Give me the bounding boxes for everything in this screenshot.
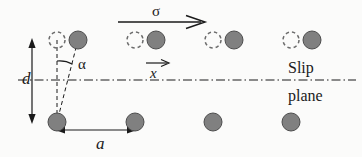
sigma-arrow <box>118 16 205 29</box>
filled-atom <box>69 31 87 49</box>
dashed-atom <box>283 32 299 48</box>
a-dimension-arrow <box>55 127 137 134</box>
label-d: d <box>22 70 31 87</box>
top-row-filled-atoms <box>69 31 321 49</box>
label-a: a <box>96 135 105 152</box>
slip-plane-diagram: d a α σ x Slip plane <box>0 0 362 157</box>
filled-atom <box>282 113 300 131</box>
label-plane: plane <box>288 88 323 104</box>
filled-atom <box>48 113 66 131</box>
dashed-atom <box>205 32 221 48</box>
alpha-slant-line <box>57 40 78 122</box>
bottom-row-filled-atoms <box>48 113 300 131</box>
dashed-atom <box>127 32 143 48</box>
filled-atom <box>147 31 165 49</box>
filled-atom <box>204 113 222 131</box>
label-x: x <box>150 66 157 81</box>
alpha-arc <box>57 61 73 64</box>
diagram-canvas <box>0 0 362 157</box>
filled-atom <box>303 31 321 49</box>
label-sigma: σ <box>152 4 160 19</box>
alpha-angle-construction <box>57 40 78 122</box>
label-alpha: α <box>78 57 86 72</box>
filled-atom <box>126 113 144 131</box>
filled-atom <box>225 31 243 49</box>
label-slip: Slip <box>288 60 314 76</box>
